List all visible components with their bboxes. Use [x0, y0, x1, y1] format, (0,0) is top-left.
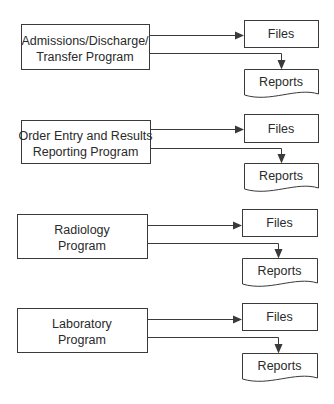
program-label-line-2: Transfer Program: [36, 50, 133, 64]
arrowhead-right-icon: [233, 316, 242, 324]
files-label: Files: [266, 310, 292, 324]
arrowhead-down-icon: [278, 60, 286, 70]
arrowhead-down-icon: [275, 344, 283, 354]
program-label-line-1: Order Entry and Results: [18, 129, 152, 143]
program-group: Radiology Program Files Reports: [18, 210, 318, 287]
program-label-line-2: Program: [58, 239, 106, 253]
reports-label: Reports: [259, 169, 303, 183]
program-label-line-2: Program: [58, 333, 106, 347]
reports-label: Reports: [258, 359, 302, 373]
program-group: Admissions/Discharge/ Transfer Program F…: [21, 21, 318, 98]
reports-connector-arrow: [151, 149, 282, 156]
files-label: Files: [266, 216, 292, 230]
reports-connector-arrow: [148, 244, 279, 251]
reports-label: Reports: [259, 75, 303, 89]
program-output-diagram: Admissions/Discharge/ Transfer Program F…: [0, 0, 334, 404]
files-label: Files: [268, 27, 294, 41]
program-label-line-1: Radiology: [54, 223, 110, 237]
reports-connector-arrow: [150, 54, 282, 62]
program-group: Order Entry and Results Reporting Progra…: [18, 115, 318, 192]
arrowhead-right-icon: [235, 32, 244, 40]
arrowhead-right-icon: [233, 222, 242, 230]
arrowhead-down-icon: [275, 249, 283, 259]
files-label: Files: [268, 122, 294, 136]
arrowhead-right-icon: [235, 126, 244, 134]
reports-connector-arrow: [148, 338, 279, 346]
reports-label: Reports: [258, 264, 302, 278]
arrowhead-down-icon: [278, 154, 286, 164]
program-group: Laboratory Program Files Reports: [18, 304, 318, 382]
program-label-line-1: Admissions/Discharge/: [21, 34, 149, 48]
program-label-line-1: Laboratory: [52, 317, 113, 331]
program-label-line-2: Reporting Program: [33, 145, 139, 159]
